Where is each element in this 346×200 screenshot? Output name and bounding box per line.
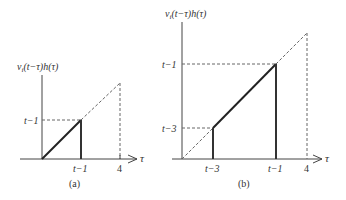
- solid-ramp: [213, 64, 276, 128]
- y-tick-t-1: t−1: [162, 59, 177, 70]
- x-tick-t-3: t−3: [205, 163, 220, 174]
- caption-b: (b): [238, 178, 250, 190]
- x-tick-4: 4: [304, 163, 309, 174]
- convolution-diagram: vi(t−τ)h(τ) t−1 t−1 4 τ (a) vi(t−τ)h(τ) …: [0, 0, 346, 200]
- y-axis-label: vi(t−τ)h(τ): [165, 8, 207, 21]
- x-tick-4: 4: [117, 163, 122, 174]
- y-axis-label: vi(t−τ)h(τ): [17, 61, 59, 74]
- x-tick-t-1: t−1: [73, 163, 88, 174]
- dashed-ramp-upper: [276, 33, 307, 64]
- solid-ramp: [42, 120, 81, 159]
- y-tick-t-3: t−3: [162, 123, 177, 134]
- dashed-ramp: [81, 83, 120, 120]
- panel-a: vi(t−τ)h(τ) t−1 t−1 4 τ (a): [17, 61, 145, 190]
- y-tick-t-1: t−1: [24, 115, 39, 126]
- x-axis-label: τ: [140, 152, 145, 164]
- x-tick-t-1: t−1: [268, 163, 283, 174]
- x-axis-label: τ: [325, 152, 330, 164]
- caption-a: (a): [69, 178, 80, 190]
- dashed-ramp-lower: [182, 128, 213, 159]
- panel-b: vi(t−τ)h(τ) t−1 t−3 t−3 t−1 4 τ (b): [162, 8, 330, 190]
